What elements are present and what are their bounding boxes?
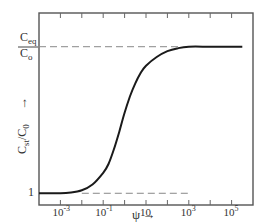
plot-frame — [39, 13, 253, 205]
y-high-label: Ceq Co — [18, 30, 38, 62]
chart: 10-310-110103105 Ceq Co 1 Cst/C0 → ψ→ — [0, 0, 268, 223]
y-axis-label-text: Cst/C0 — [15, 124, 31, 154]
x-axis-label: ψ→ — [132, 207, 155, 222]
x-tick-label: 105 — [224, 204, 239, 218]
tick-group — [60, 13, 231, 205]
y-low-label: 1 — [28, 185, 34, 199]
series-curve — [39, 47, 242, 194]
reference-line-group — [39, 47, 189, 194]
y-axis-label: Cst/C0 → — [15, 97, 31, 154]
y-axis-arrow: → — [15, 97, 30, 110]
x-tick-label: 103 — [181, 204, 196, 218]
x-tick-label: 10-1 — [95, 204, 113, 218]
y-high-num: Ceq — [20, 30, 37, 46]
x-tick-label: 10-3 — [52, 204, 70, 218]
y-high-den: Co — [20, 46, 33, 62]
